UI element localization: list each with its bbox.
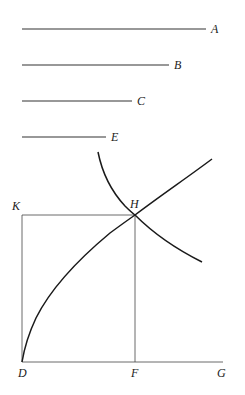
label-b: B	[174, 58, 182, 72]
label-c: C	[137, 94, 146, 108]
label-h: H	[129, 197, 140, 211]
parabola-curve	[22, 159, 212, 362]
label-d: D	[17, 366, 27, 380]
hyperbola-curve	[98, 152, 202, 262]
label-f: F	[130, 366, 139, 380]
label-k: K	[11, 199, 21, 213]
label-g: G	[217, 366, 226, 380]
label-e: E	[110, 130, 119, 144]
geometry-diagram: A B C E K H D F G	[0, 0, 245, 395]
label-a: A	[210, 22, 219, 36]
